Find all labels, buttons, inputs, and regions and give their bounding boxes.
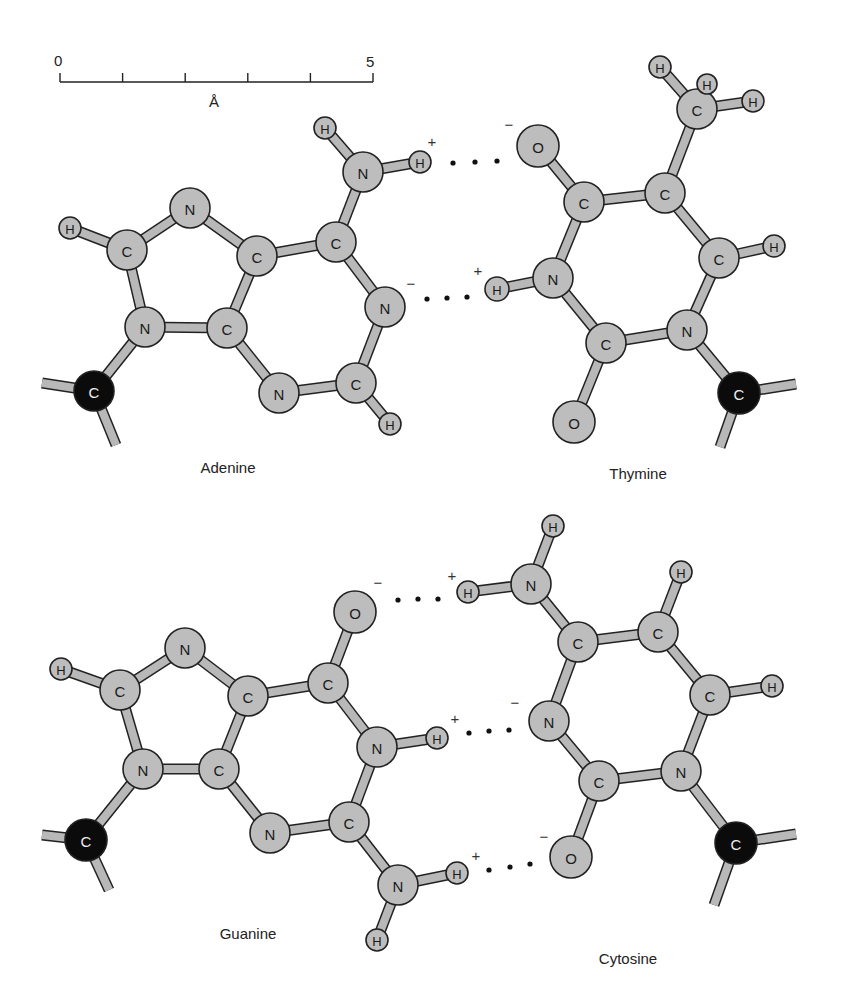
atom-h: H <box>649 56 671 78</box>
atom-c: C <box>638 612 678 652</box>
atom-h: H <box>426 727 448 749</box>
molecule-label-adenine: Adenine <box>200 459 255 476</box>
atom-symbol: C <box>734 386 745 403</box>
atom-c: C <box>237 236 277 276</box>
atom-h: H <box>366 929 388 951</box>
partial-positive-charge: + <box>451 710 460 727</box>
atom-c: C <box>308 663 348 703</box>
hydrogen-bonds: +−+−+−+−+− <box>374 116 549 873</box>
partial-positive-charge: + <box>428 133 437 150</box>
partial-negative-charge: − <box>511 694 520 711</box>
atom-symbol: C <box>573 635 584 652</box>
atom-n: N <box>378 865 418 905</box>
hbond-dot <box>506 727 511 732</box>
atom-symbol: C <box>601 336 612 353</box>
atom-symbol: C <box>243 689 254 706</box>
atom-c-sugar: C <box>718 372 760 414</box>
sugar-backbone-stubs <box>42 383 796 905</box>
hbond-dot <box>450 160 455 165</box>
hbond-dot <box>464 294 469 299</box>
scale-bar: 0 5 Å <box>54 52 374 110</box>
atom-n: N <box>661 751 701 791</box>
atom-n: N <box>365 287 405 327</box>
atom-n: N <box>529 701 569 741</box>
atom-o: O <box>550 836 592 878</box>
atom-o: O <box>553 401 595 443</box>
atom-symbol: C <box>714 251 725 268</box>
atom-symbol: N <box>185 201 196 218</box>
atom-h: H <box>59 217 81 239</box>
atom-c: C <box>586 323 626 363</box>
partial-negative-charge: − <box>540 828 549 845</box>
atom-n: N <box>259 373 299 413</box>
atom-symbol: C <box>344 815 355 832</box>
atom-h: H <box>446 862 468 884</box>
atom-symbol: H <box>676 566 685 581</box>
molecule-labels: AdenineThymineGuanineCytosine <box>200 459 666 967</box>
atom-symbol: N <box>274 386 285 403</box>
atom-n: N <box>343 152 383 192</box>
partial-positive-charge: + <box>474 262 483 279</box>
atom-c: C <box>329 802 369 842</box>
atom-h: H <box>761 675 783 697</box>
atom-symbol: C <box>705 688 716 705</box>
atom-h: H <box>485 277 509 301</box>
hbond-dot <box>395 597 400 602</box>
atom-c-sugar: C <box>74 371 114 411</box>
atom-h: H <box>542 515 564 537</box>
atom-symbol: H <box>372 934 381 949</box>
atom-n: N <box>123 749 163 789</box>
atom-h: H <box>457 581 479 603</box>
scale-start-label: 0 <box>54 52 62 69</box>
atom-c: C <box>107 230 147 270</box>
atom-symbol: H <box>320 122 329 137</box>
atom-c: C <box>645 173 685 213</box>
atom-symbol: N <box>265 826 276 843</box>
atom-c: C <box>690 675 730 715</box>
molecule-label-cytosine: Cytosine <box>599 950 657 967</box>
atom-o: O <box>334 591 376 633</box>
atom-symbol: N <box>526 577 537 594</box>
atom-o: O <box>517 125 559 167</box>
partial-negative-charge: − <box>407 275 416 292</box>
atom-symbol: C <box>81 833 92 850</box>
atom-symbol: H <box>769 240 778 255</box>
atom-c: C <box>207 308 247 348</box>
hydrogen-bond: +− <box>472 828 549 873</box>
atom-c: C <box>336 363 376 403</box>
atom-n: N <box>250 813 290 853</box>
atom-symbol: C <box>122 243 133 260</box>
atom-symbol: H <box>767 680 776 695</box>
partial-negative-charge: − <box>505 116 514 133</box>
atom-h: H <box>314 117 336 139</box>
atom-symbol: N <box>180 641 191 658</box>
atom-h: H <box>742 90 764 112</box>
molecule-label-thymine: Thymine <box>609 465 667 482</box>
molecule-label-guanine: Guanine <box>220 925 277 942</box>
atom-symbol: N <box>682 323 693 340</box>
atom-h: H <box>379 413 401 435</box>
atom-n: N <box>511 564 551 604</box>
atom-symbol: H <box>385 418 394 433</box>
atom-symbol: N <box>138 762 149 779</box>
hbond-dot <box>444 295 449 300</box>
hbond-dot <box>507 864 512 869</box>
atom-symbol: H <box>463 586 472 601</box>
atom-symbol: H <box>655 61 664 76</box>
atom-symbol: C <box>89 384 100 401</box>
atom-n: N <box>125 307 165 347</box>
atom-c: C <box>564 182 604 222</box>
atom-symbol: C <box>660 186 671 203</box>
hbond-dot <box>486 728 491 733</box>
atom-symbol: C <box>731 836 742 853</box>
atom-symbol: O <box>532 139 544 156</box>
partial-negative-charge: − <box>374 574 383 591</box>
hydrogen-bond: +− <box>374 567 457 603</box>
atom-c: C <box>558 622 598 662</box>
scale-unit-label: Å <box>209 93 219 110</box>
atom-symbol: N <box>140 320 151 337</box>
atom-c-sugar: C <box>715 822 757 864</box>
atom-n: N <box>667 310 707 350</box>
hbond-dot <box>466 730 471 735</box>
hbond-dot <box>472 159 477 164</box>
